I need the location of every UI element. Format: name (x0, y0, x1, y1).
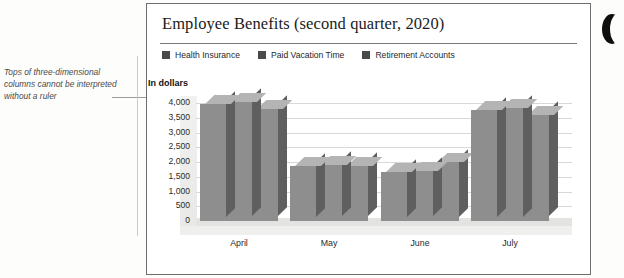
chart-column (471, 110, 497, 221)
y-axis-tick-label: 4,000 (146, 97, 190, 107)
y-axis-tick-label: 0 (146, 215, 190, 225)
legend-label: Paid Vacation Time (271, 50, 344, 60)
y-axis-tick-label: 2,000 (146, 156, 190, 166)
legend-swatch-icon (362, 51, 370, 59)
y-axis-tick-label: 500 (146, 200, 190, 210)
y-axis-title: In dollars (148, 78, 188, 88)
legend-item-health-insurance: Health Insurance (162, 50, 240, 60)
chart-legend: Health Insurance Paid Vacation Time Reti… (162, 50, 455, 60)
column-side-face (549, 102, 558, 217)
annotation-vertical-rule (137, 56, 138, 236)
chart-column (381, 172, 407, 221)
figure-page: Tops of three-dimensional columns cannot… (0, 0, 624, 278)
legend-label: Health Insurance (175, 50, 240, 60)
x-axis-label: July (470, 238, 550, 248)
y-axis-tick-label: 1,000 (146, 186, 190, 196)
x-axis-label: June (380, 238, 460, 248)
column-side-face (278, 96, 287, 217)
y-axis-tick-label: 3,000 (146, 127, 190, 137)
legend-label: Retirement Accounts (375, 50, 454, 60)
legend-swatch-icon (258, 51, 266, 59)
column-front-face (381, 172, 407, 221)
y-axis-tick-label: 3,500 (146, 112, 190, 122)
column-side-face (252, 88, 261, 216)
chart-column (290, 166, 316, 221)
x-axis-label: May (289, 238, 369, 248)
column-front-face (290, 166, 316, 221)
annotation-note: Tops of three-dimensional columns cannot… (4, 66, 124, 103)
binder-hole-icon (602, 14, 622, 44)
y-axis-tick-label: 2,500 (146, 141, 190, 151)
plot-floor-front (180, 226, 572, 235)
x-axis-label: April (199, 238, 279, 248)
column-front-face (471, 110, 497, 221)
column-side-face (497, 97, 506, 216)
column-side-face (226, 91, 235, 216)
legend-swatch-icon (162, 51, 170, 59)
column-side-face (523, 95, 532, 216)
legend-item-paid-vacation-time: Paid Vacation Time (258, 50, 344, 60)
legend-item-retirement-accounts: Retirement Accounts (362, 50, 454, 60)
y-axis-tick-label: 1,500 (146, 171, 190, 181)
chart-title: Employee Benefits (second quarter, 2020) (162, 14, 444, 34)
title-divider (160, 43, 577, 44)
chart-column (200, 104, 226, 221)
column-front-face (200, 104, 226, 221)
